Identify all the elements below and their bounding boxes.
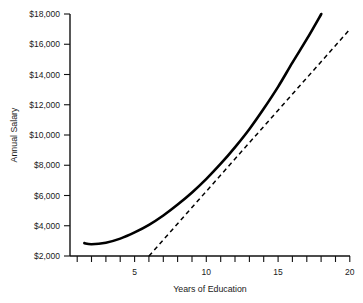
x-tick-label: 10 (202, 267, 212, 277)
x-axis-ticks (77, 256, 350, 262)
y-tick-label: $14,000 (29, 70, 60, 80)
chart-container: $18,000 $16,000 $14,000 $12,000 $10,000 … (0, 0, 363, 303)
x-axis-title: Years of Education (173, 284, 247, 294)
y-axis-title: Annual Salary (9, 107, 19, 162)
y-tick-label: $16,000 (29, 39, 60, 49)
y-tick-label: $18,000 (29, 9, 60, 19)
y-tick-label: $10,000 (29, 130, 60, 140)
y-tick-label: $6,000 (34, 191, 60, 201)
x-axis-tick-labels: 5 10 15 20 (132, 267, 355, 277)
quadratic-fit-curve (84, 14, 321, 244)
x-tick-label: 5 (132, 267, 137, 277)
x-tick-label: 20 (345, 267, 355, 277)
y-tick-label: $2,000 (34, 251, 60, 261)
y-axis-tick-labels: $18,000 $16,000 $14,000 $12,000 $10,000 … (29, 9, 60, 261)
linear-fit-line (149, 29, 350, 256)
y-tick-label: $12,000 (29, 100, 60, 110)
y-tick-label: $4,000 (34, 221, 60, 231)
x-tick-label: 15 (273, 267, 283, 277)
salary-education-chart: $18,000 $16,000 $14,000 $12,000 $10,000 … (0, 0, 363, 303)
y-axis-ticks (64, 14, 70, 256)
y-tick-label: $8,000 (34, 160, 60, 170)
